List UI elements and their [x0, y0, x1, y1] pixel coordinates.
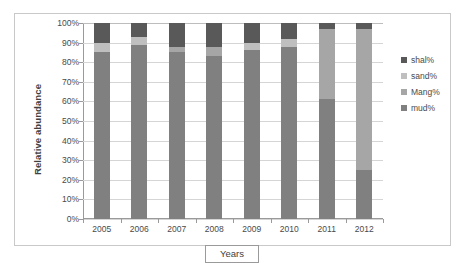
- y-axis-tick-label: 0%: [48, 214, 79, 224]
- bar-group[interactable]: [244, 23, 260, 219]
- bar-segment[interactable]: [94, 43, 110, 53]
- bar-group[interactable]: [131, 23, 147, 219]
- legend-item[interactable]: Mang%: [401, 84, 466, 100]
- y-axis-tick-label: 30%: [48, 155, 79, 165]
- legend-item-label: shal%: [411, 55, 434, 65]
- legend-item-label: mud%: [411, 103, 435, 113]
- bar-stack: [244, 23, 260, 219]
- bar-segment[interactable]: [131, 23, 147, 37]
- bar-group[interactable]: [281, 23, 297, 219]
- bar-stack: [356, 23, 372, 219]
- bar-segment[interactable]: [169, 23, 185, 47]
- bar-stack: [206, 23, 222, 219]
- bar-segment[interactable]: [206, 23, 222, 47]
- legend-swatch-icon: [401, 105, 407, 111]
- legend-item[interactable]: mud%: [401, 100, 466, 116]
- bar-group[interactable]: [94, 23, 110, 219]
- bar-group[interactable]: [319, 23, 335, 219]
- bar-segment[interactable]: [356, 23, 372, 29]
- legend-item[interactable]: sand%: [401, 68, 466, 84]
- bar-stack: [319, 23, 335, 219]
- bar-segment[interactable]: [131, 37, 147, 45]
- legend-swatch-icon: [401, 73, 407, 79]
- y-axis-tick-label: 90%: [48, 38, 79, 48]
- x-axis-tick-label: 2007: [158, 223, 196, 235]
- bar-segment[interactable]: [244, 50, 260, 219]
- bars-layer: [83, 23, 383, 219]
- x-axis-tick-labels: 20052006200720082009201020112012: [83, 223, 383, 237]
- y-axis-tick-labels: 0%10%20%30%40%50%60%70%80%90%100%: [48, 23, 79, 228]
- y-axis-tick-label: 60%: [48, 96, 79, 106]
- bar-segment[interactable]: [244, 23, 260, 43]
- bar-segment[interactable]: [244, 43, 260, 51]
- bar-segment[interactable]: [169, 47, 185, 53]
- bar-segment[interactable]: [206, 47, 222, 57]
- bar-segment[interactable]: [319, 99, 335, 219]
- chart-legend: shal%sand%Mang%mud%: [401, 52, 466, 116]
- y-axis-tick-label: 20%: [48, 175, 79, 185]
- chart-frame: Relative abundance 0%10%20%30%40%50%60%7…: [14, 13, 451, 246]
- legend-swatch-icon: [401, 57, 407, 63]
- y-axis-tick-label: 70%: [48, 77, 79, 87]
- bar-segment[interactable]: [206, 56, 222, 219]
- plot-area: [83, 23, 383, 219]
- bar-segment[interactable]: [131, 45, 147, 219]
- bar-segment[interactable]: [94, 52, 110, 219]
- legend-swatch-icon: [401, 89, 407, 95]
- bar-segment[interactable]: [281, 47, 297, 219]
- x-axis-title-label: Years: [220, 248, 244, 259]
- bar-segment[interactable]: [356, 170, 372, 219]
- x-axis-tick-label: 2005: [83, 223, 121, 235]
- bar-segment[interactable]: [356, 29, 372, 170]
- x-axis-title: Years: [205, 245, 259, 263]
- y-axis-title-label: Relative abundance: [33, 83, 44, 174]
- x-axis-tick-label: 2011: [308, 223, 346, 235]
- y-axis-tick-label: 40%: [48, 136, 79, 146]
- y-axis-tick-label: 50%: [48, 116, 79, 126]
- bar-segment[interactable]: [94, 23, 110, 43]
- x-axis-tick-label: 2008: [196, 223, 234, 235]
- bar-stack: [281, 23, 297, 219]
- bar-segment[interactable]: [319, 29, 335, 100]
- y-axis-title: Relative abundance: [31, 69, 45, 189]
- y-axis-tick-label: 100%: [48, 18, 79, 28]
- bar-group[interactable]: [356, 23, 372, 219]
- y-axis-tick-label: 80%: [48, 57, 79, 67]
- x-axis-tickmark: [383, 219, 384, 223]
- x-axis-tick-label: 2012: [346, 223, 384, 235]
- x-axis-tick-label: 2010: [271, 223, 309, 235]
- bar-group[interactable]: [169, 23, 185, 219]
- x-axis-tick-label: 2009: [233, 223, 271, 235]
- x-axis-tick-label: 2006: [121, 223, 159, 235]
- y-axis-tick-label: 10%: [48, 194, 79, 204]
- bar-group[interactable]: [206, 23, 222, 219]
- legend-item-label: sand%: [411, 71, 437, 81]
- bar-segment[interactable]: [281, 23, 297, 39]
- legend-item-label: Mang%: [411, 87, 440, 97]
- bar-stack: [131, 23, 147, 219]
- bar-segment[interactable]: [319, 23, 335, 29]
- bar-stack: [169, 23, 185, 219]
- bar-segment[interactable]: [281, 39, 297, 47]
- bar-stack: [94, 23, 110, 219]
- legend-item[interactable]: shal%: [401, 52, 466, 68]
- bar-segment[interactable]: [169, 52, 185, 219]
